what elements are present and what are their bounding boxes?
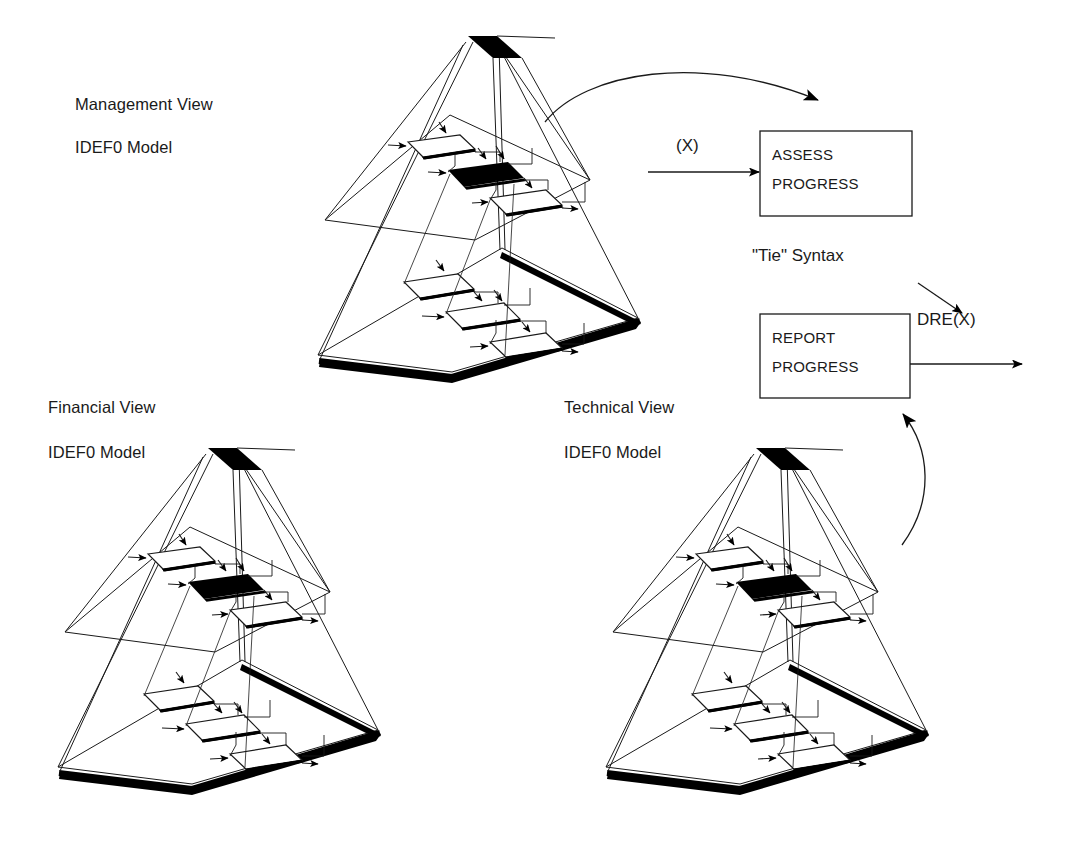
view-subtitle-technical: IDEF0 Model (564, 443, 661, 462)
activity-box-label-assess-line1: ASSESS (772, 146, 833, 163)
view-title-financial: Financial View (48, 398, 155, 417)
pyramid-technical-view[interactable] (606, 448, 929, 795)
flow-label-tie-syntax: "Tie" Syntax (752, 246, 844, 266)
diagram-canvas: Management View IDEF0 Model Financial Vi… (0, 0, 1070, 851)
activity-box-label-report-line2: PROGRESS (772, 358, 859, 375)
pyramid-financial-view[interactable] (58, 448, 381, 795)
flow-label-input-x: (X) (676, 136, 699, 156)
activity-box-label-assess-line2: PROGRESS (772, 175, 859, 192)
view-title-technical: Technical View (564, 398, 674, 417)
activity-box-label-report-line1: REPORT (772, 329, 835, 346)
activity-box-report-progress[interactable] (760, 314, 910, 398)
activity-box-assess-progress[interactable] (760, 131, 912, 216)
view-subtitle-financial: IDEF0 Model (48, 443, 145, 462)
curved-arrow-technical-to-report (902, 414, 925, 545)
view-subtitle-management: IDEF0 Model (75, 138, 172, 157)
arrow-pointer-dre-x (918, 283, 962, 313)
view-title-management: Management View (75, 95, 213, 114)
pyramid-stack-icon (0, 0, 1070, 851)
curved-arrow-management-to-assess (545, 73, 818, 122)
flow-label-dre-x: DRE(X) (917, 310, 976, 330)
